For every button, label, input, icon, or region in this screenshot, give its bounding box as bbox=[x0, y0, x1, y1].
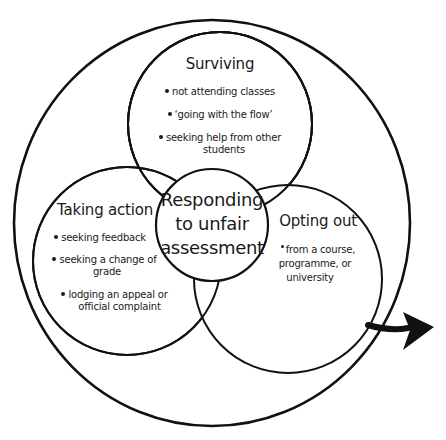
bullet-text: ‘going with the flow’ bbox=[175, 109, 273, 120]
opting-out-bullet-1-cont-2: university bbox=[270, 272, 350, 284]
surviving-bullet-1: not attending classes bbox=[150, 86, 290, 98]
center-title: Responding to unfair assessment bbox=[156, 188, 268, 260]
center-line-1: Responding bbox=[156, 188, 268, 212]
surviving-bullet-3-cont: students bbox=[180, 144, 268, 156]
surviving-bullet-2: ‘going with the flow’ bbox=[150, 109, 290, 121]
opting-out-title: Opting out bbox=[275, 212, 361, 230]
bullet-text: not attending classes bbox=[172, 86, 275, 97]
bullet-icon bbox=[281, 245, 284, 248]
taking-action-bullet-3-cont: official complaint bbox=[62, 301, 177, 313]
surviving-bullet-3: seeking help from other bbox=[145, 132, 295, 144]
taking-action-bullet-3: lodging an appeal or bbox=[52, 289, 177, 301]
center-line-2: to unfair bbox=[156, 212, 268, 236]
bullet-icon bbox=[52, 257, 56, 261]
opting-out-bullet-1: from a course, bbox=[272, 244, 364, 256]
taking-action-bullet-2-cont: grade bbox=[77, 266, 137, 278]
bullet-icon bbox=[168, 112, 172, 116]
bullet-icon bbox=[54, 235, 58, 239]
bullet-text: seeking help from other bbox=[166, 132, 281, 143]
bullet-text: seeking a change of bbox=[59, 254, 156, 265]
bullet-text: seeking feedback bbox=[61, 232, 146, 243]
bullet-icon bbox=[165, 89, 169, 93]
taking-action-title: Taking action bbox=[50, 201, 160, 219]
surviving-title: Surviving bbox=[170, 55, 270, 73]
bullet-text: from a course, bbox=[286, 244, 356, 255]
bullet-text: lodging an appeal or bbox=[68, 289, 167, 300]
exit-arrow-icon bbox=[368, 312, 434, 350]
taking-action-bullet-2: seeking a change of bbox=[42, 254, 167, 266]
opting-out-bullet-1-cont: programme, or bbox=[270, 258, 360, 270]
bullet-icon bbox=[159, 135, 163, 139]
bullet-icon bbox=[61, 292, 65, 296]
center-line-3: assessment bbox=[156, 236, 268, 260]
taking-action-bullet-1: seeking feedback bbox=[45, 232, 155, 244]
